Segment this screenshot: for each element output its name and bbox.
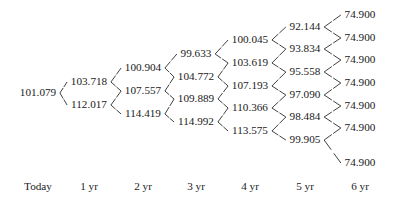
tree-branch — [279, 72, 285, 78]
tree-branch — [334, 153, 341, 163]
tree-branch — [333, 38, 341, 43]
tree-branch — [171, 54, 176, 60]
tree-branch — [218, 122, 223, 126]
tree-node-value: 93.834 — [290, 42, 321, 54]
tree-node-value: 74.900 — [345, 99, 376, 111]
tree-branch — [333, 78, 341, 83]
tree-branch — [333, 83, 341, 89]
axis-tick-label: 4 yr — [241, 180, 259, 192]
tree-branch — [218, 116, 223, 122]
tree-branch — [215, 48, 221, 54]
tree-branch — [170, 77, 174, 83]
tree-branch — [218, 93, 223, 99]
tree-node-value: 74.900 — [345, 31, 376, 43]
tree-branch — [165, 91, 169, 95]
tree-branch — [333, 128, 341, 134]
tree-branch — [272, 86, 278, 90]
tree-branch — [272, 80, 278, 86]
tree-branch — [64, 99, 67, 105]
tree-node-value: 109.889 — [178, 92, 215, 104]
tree-node-value: 112.017 — [71, 98, 107, 110]
tree-node-value: 74.900 — [345, 53, 376, 65]
tree-branch — [333, 33, 341, 38]
tree-branch — [324, 89, 332, 95]
tree-branch — [223, 108, 228, 114]
tree-branch — [111, 82, 116, 86]
tree-branch — [170, 73, 174, 77]
tree-branch — [111, 99, 116, 105]
tree-branch — [279, 45, 285, 49]
tree-node-value: 74.900 — [345, 76, 376, 88]
tree-node-value: 99.905 — [290, 133, 321, 145]
tree-branch — [333, 60, 341, 66]
tree-node-value: 110.366 — [232, 101, 268, 113]
tree-branch — [324, 112, 332, 117]
tree-branch — [170, 99, 174, 106]
time-axis-group: Today1 yr2 yr3 yr4 yr5 yr6 yr — [24, 180, 369, 192]
tree-branch — [333, 123, 341, 128]
tree-branch — [279, 95, 285, 101]
tree-branch — [324, 21, 332, 27]
axis-tick-label: 1 yr — [80, 180, 98, 192]
tree-branch — [165, 62, 170, 68]
tree-branch — [279, 68, 285, 72]
tree-branch — [272, 40, 278, 44]
axis-tick-label: 5 yr — [296, 180, 314, 192]
tree-branch — [218, 71, 223, 77]
tree-node-value: 107.557 — [125, 84, 162, 96]
tree-node-value: 107.193 — [232, 79, 269, 91]
tree-node-value: 113.575 — [232, 124, 268, 136]
tree-branch — [333, 15, 341, 21]
tree-branch — [272, 57, 278, 63]
tree-branch — [223, 127, 228, 131]
tree-node-value: 97.090 — [290, 88, 321, 100]
tree-node-value: 92.144 — [290, 20, 321, 32]
tree-node-value: 104.772 — [178, 70, 214, 82]
tree-branch — [279, 49, 285, 55]
tree-node-value: 103.718 — [71, 75, 108, 87]
tree-branch — [215, 54, 221, 58]
tree-branch — [223, 86, 228, 92]
tree-node-value: 99.633 — [181, 47, 212, 59]
binomial-tree-svg: 101.079103.718112.017100.904107.557114.4… — [0, 0, 396, 209]
tree-branch — [223, 104, 228, 108]
tree-branch — [279, 117, 285, 123]
tree-branch — [223, 63, 228, 69]
tree-branch — [222, 40, 228, 46]
tree-branch — [223, 82, 228, 86]
tree-node-value: 114.419 — [125, 107, 161, 119]
tree-branch — [116, 68, 121, 74]
axis-tick-label: 6 yr — [351, 180, 369, 192]
tree-branch — [116, 87, 121, 91]
tree-branch — [222, 59, 228, 63]
tree-branch — [272, 131, 278, 135]
tree-branch — [324, 27, 332, 32]
tree-branch — [111, 76, 116, 82]
tree-node-value: 101.079 — [20, 86, 57, 98]
tree-node-value: 100.045 — [232, 33, 269, 45]
tree-branch — [165, 85, 169, 91]
tree-node-value: 114.992 — [178, 115, 214, 127]
tree-node-value: 74.900 — [345, 121, 376, 133]
tree-branch — [170, 118, 174, 122]
tree-branch — [279, 136, 285, 140]
node-labels-group: 101.079103.718112.017100.904107.557114.4… — [20, 8, 376, 168]
tree-branch — [279, 27, 285, 33]
tree-branch — [170, 95, 174, 99]
tree-branch — [116, 91, 121, 97]
tree-branch — [324, 95, 332, 100]
tree-branch — [324, 117, 332, 122]
tree-branch — [324, 72, 332, 77]
tree-branch — [272, 125, 278, 131]
tree-branch — [279, 113, 285, 117]
axis-tick-label: 3 yr — [187, 180, 205, 192]
tree-branch — [333, 55, 341, 60]
tree-node-value: 100.904 — [125, 61, 162, 73]
tree-node-value: 95.558 — [290, 65, 321, 77]
tree-branch — [165, 68, 169, 72]
tree-branch — [272, 102, 278, 108]
tree-branch — [272, 63, 278, 67]
tree-branch — [324, 49, 332, 54]
tree-branch — [165, 107, 169, 114]
tree-branch — [324, 134, 332, 140]
